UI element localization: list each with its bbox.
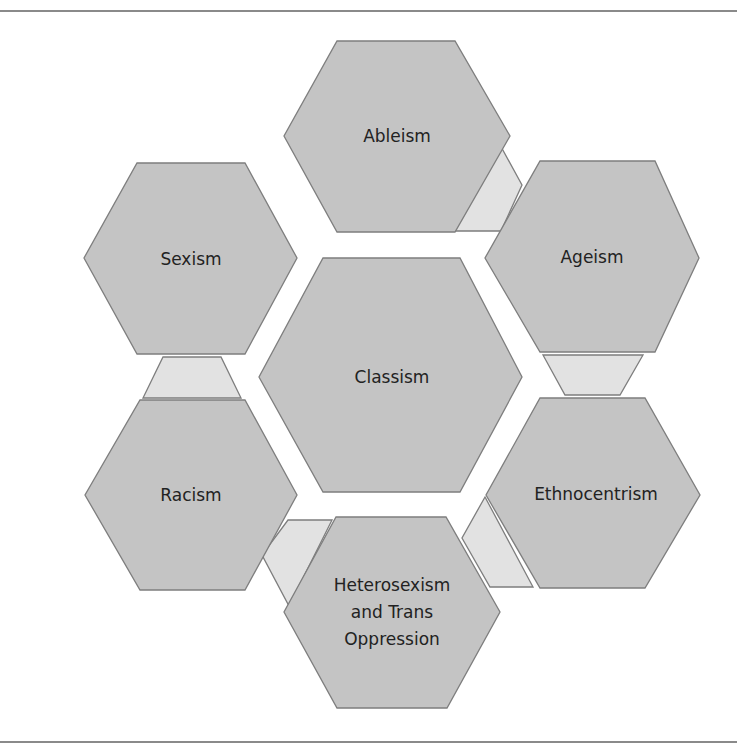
bottom-rule <box>0 741 737 743</box>
label-ageism: Ageism <box>560 247 623 267</box>
label-heterosexism-line-3: Oppression <box>344 629 440 649</box>
label-ethnocentrism: Ethnocentrism <box>534 484 658 504</box>
oppression-hexagon-diagram: Ableism Sexism Ageism Classism Racism Et… <box>0 0 737 755</box>
label-classism: Classism <box>355 367 430 387</box>
hexagon-classism: Classism <box>259 258 522 492</box>
label-ableism: Ableism <box>363 126 431 146</box>
label-heterosexism-line-2: and Trans <box>351 602 433 622</box>
connector-racism-sexism <box>143 357 241 398</box>
hexagon-sexism: Sexism <box>84 163 297 354</box>
label-heterosexism-line-1: Heterosexism <box>334 575 451 595</box>
connector-ageism-ethnocentrism <box>543 355 643 395</box>
label-sexism: Sexism <box>160 249 221 269</box>
label-racism: Racism <box>160 485 221 505</box>
